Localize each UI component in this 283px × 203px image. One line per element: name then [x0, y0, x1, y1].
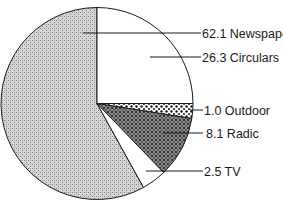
label-newspapers: 62.1 Newspapers [202, 27, 283, 41]
label-tv: 2.5 TV [204, 165, 241, 179]
label-outdoor: 1.0 Outdoor [204, 104, 270, 118]
pie-chart: 62.1 Newspapers 26.3 Circulars 1.0 Outdo… [0, 0, 283, 203]
label-circulars: 26.3 Circulars [202, 51, 279, 65]
label-radio: 8.1 Radic [206, 127, 259, 141]
slice-circulars [97, 8, 193, 104]
